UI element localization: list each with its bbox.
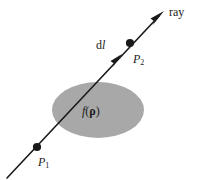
point-p1-dot	[33, 143, 41, 151]
label-point-p1: P1	[38, 156, 49, 170]
label-field-function: f(ρ)	[82, 105, 100, 117]
label-dl-l: l	[102, 38, 105, 52]
label-p1-subscript: 1	[45, 161, 49, 170]
label-dl: dl	[96, 39, 105, 51]
label-p2-subscript: 2	[140, 58, 144, 67]
point-p2-dot	[126, 39, 134, 47]
ray-field-diagram: ray dl P2 P1 f(ρ)	[0, 0, 200, 180]
label-f-paren-close: )	[96, 104, 100, 118]
label-point-p2: P2	[133, 53, 144, 67]
diagram-canvas	[0, 0, 200, 180]
label-ray: ray	[169, 6, 184, 18]
